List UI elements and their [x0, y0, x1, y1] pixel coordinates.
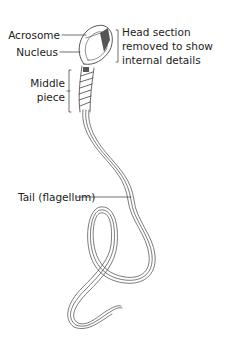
nucleus-label: Nucleus — [2, 46, 58, 58]
middle-piece — [79, 66, 94, 112]
head — [79, 25, 112, 64]
head-section-note-line2: removed to show — [122, 40, 213, 52]
middle-piece-label-line1: Middle — [10, 77, 65, 89]
centriole — [83, 67, 89, 72]
middle-piece-label-line2: piece — [10, 91, 65, 103]
head-section-note-line1: Head section — [122, 26, 191, 38]
tail-flagellum — [68, 110, 155, 329]
leader-lines — [60, 30, 131, 197]
head-section-note-line3: internal details — [122, 54, 201, 66]
acrosome-label: Acrosome — [2, 29, 60, 41]
tail-label: Tail (flagellum) — [18, 191, 95, 203]
